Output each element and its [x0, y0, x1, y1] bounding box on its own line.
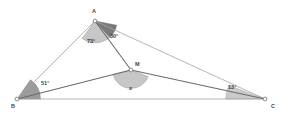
geometry-figure: A B C M 73° 30° 51° 13° x [0, 0, 291, 121]
vertex-label-B: B [11, 104, 15, 110]
vertex-point-B [15, 97, 19, 101]
geometry-canvas [0, 0, 291, 121]
segment-AB [17, 21, 95, 99]
vertex-point-A [93, 19, 97, 23]
angle-label-A-left: 73° [87, 39, 95, 45]
vertex-point-M [129, 68, 133, 72]
segment-MC [131, 70, 265, 99]
angle-label-M-unknown: x [129, 86, 132, 92]
vertex-label-M: M [135, 62, 140, 68]
angle-label-C: 13° [228, 85, 236, 91]
vertex-point-C [263, 97, 267, 101]
vertex-label-A: A [92, 9, 96, 15]
angle-label-B: 51° [41, 81, 49, 87]
vertex-label-C: C [271, 104, 275, 110]
segment-AC [95, 21, 265, 99]
angle-label-A-right: 30° [110, 34, 118, 40]
